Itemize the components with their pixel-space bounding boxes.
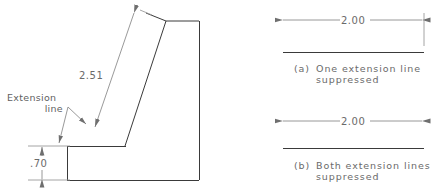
example-a-caption-line1: One extension line xyxy=(316,63,421,74)
annotation-leader-to-slant-extension xyxy=(68,107,86,124)
height-dimension-value: .70 xyxy=(30,158,47,169)
slant-dim-extension-upper xyxy=(140,10,152,15)
example-b-caption-line1: Both extension lines xyxy=(316,160,431,171)
height-dimension-70: .70 xyxy=(28,146,70,180)
slant-dimension-2-51: 2.51 xyxy=(77,10,152,127)
part-inclined-face xyxy=(125,21,166,146)
example-a-marker: (a) xyxy=(294,63,310,74)
example-a-dimension-value: 2.00 xyxy=(341,15,365,26)
example-b-group: 2.00 (b) Both extension lines suppressed xyxy=(283,114,431,182)
extension-line-annotation: Extension line xyxy=(7,92,86,143)
figure-canvas: 2.51 .70 Extension line 2.00 xyxy=(0,0,447,194)
example-b-dimension-value: 2.00 xyxy=(341,116,365,127)
slant-dimension-value: 2.51 xyxy=(79,70,103,81)
engineering-drawing-svg: 2.51 .70 Extension line 2.00 xyxy=(0,0,447,194)
example-a-group: 2.00 (a) One extension line suppressed xyxy=(283,13,424,85)
annotation-label-line1: Extension xyxy=(7,92,56,103)
part-outline-geometry xyxy=(67,13,199,180)
example-a-caption-line2: suppressed xyxy=(316,74,379,85)
example-b-caption-line2: suppressed xyxy=(316,171,379,182)
annotation-label-line2: line xyxy=(45,103,63,114)
example-b-marker: (b) xyxy=(294,160,310,171)
